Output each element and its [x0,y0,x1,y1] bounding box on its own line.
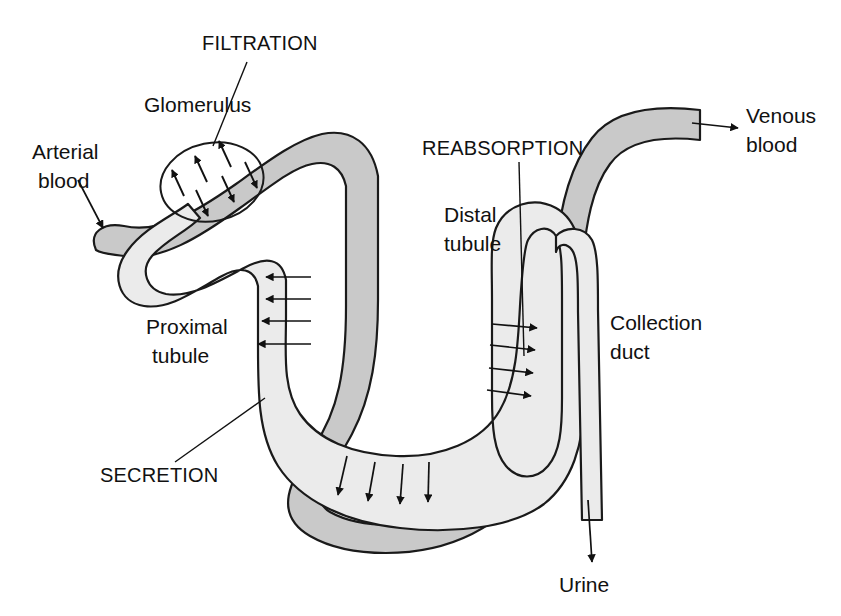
proximal-tubule-label-line2: tubule [152,344,209,367]
urine-label: Urine [559,573,609,596]
glomerulus-label: Glomerulus [144,93,251,116]
collection-duct-label-line2: duct [610,340,650,363]
nephron-diagram: FILTRATION Glomerulus Arterial blood REA… [0,0,841,616]
nephron-diagram-canvas: FILTRATION Glomerulus Arterial blood REA… [0,0,841,616]
arterial-blood-label-line2: blood [38,169,89,192]
filtration-label: FILTRATION [202,32,318,54]
venous-blood-label-line2: blood [746,133,797,156]
arterial-blood-label-line1: Arterial [32,140,99,163]
proximal-tubule-label-line1: Proximal [146,315,228,338]
loop-arrow-4 [428,462,429,502]
collection-duct-label-line1: Collection [610,311,702,334]
distal-tubule-label-line1: Distal [444,203,497,226]
distal-tubule-label-line2: tubule [444,232,501,255]
venous-blood-label-line1: Venous [746,104,816,127]
secretion-label: SECRETION [100,464,218,486]
reabsorption-label: REABSORPTION [422,137,583,159]
